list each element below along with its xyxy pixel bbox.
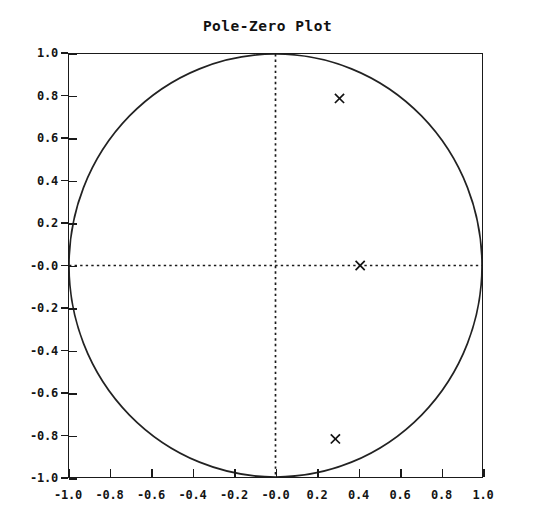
y-tick-stub bbox=[61, 95, 68, 97]
pole-marker bbox=[331, 434, 340, 443]
y-tick-label: 0.4 bbox=[37, 174, 58, 188]
x-tick-label: 0.2 bbox=[306, 488, 327, 502]
x-tick-label: 0.8 bbox=[431, 488, 452, 502]
pole-marker bbox=[356, 261, 365, 270]
x-tick bbox=[151, 469, 153, 477]
y-tick-label: 0.8 bbox=[37, 89, 58, 103]
y-tick bbox=[69, 181, 77, 183]
x-tick-label: 0.4 bbox=[348, 488, 369, 502]
y-tick-label: -0.0 bbox=[30, 259, 58, 273]
y-tick-stub bbox=[61, 180, 68, 182]
y-tick bbox=[69, 223, 77, 225]
pole-zero-figure: Pole-Zero Plot -1.0-0.8-0.6-0.4-0.2-0.00… bbox=[0, 0, 535, 527]
y-tick bbox=[69, 436, 77, 438]
y-tick-label: 1.0 bbox=[37, 46, 58, 60]
x-tick-label: 1.0 bbox=[472, 488, 493, 502]
plot-canvas bbox=[69, 54, 482, 477]
y-tick bbox=[69, 266, 77, 268]
y-tick-label: -0.2 bbox=[30, 301, 58, 315]
x-tick-label: 0.6 bbox=[389, 488, 410, 502]
x-tick-label: -0.0 bbox=[261, 488, 289, 502]
y-tick-label: 0.2 bbox=[37, 216, 58, 230]
y-tick-stub bbox=[61, 52, 68, 54]
x-tick-label: -1.0 bbox=[54, 488, 82, 502]
axis-crosshair-lines bbox=[69, 54, 482, 477]
y-tick-stub bbox=[61, 392, 68, 394]
y-tick-label: -0.4 bbox=[30, 344, 58, 358]
x-tick-label: -0.6 bbox=[137, 488, 165, 502]
page-title: Pole-Zero Plot bbox=[0, 18, 535, 34]
y-tick-stub bbox=[61, 137, 68, 139]
x-tick bbox=[483, 469, 485, 477]
y-tick-stub bbox=[61, 307, 68, 309]
y-tick bbox=[69, 96, 77, 98]
y-tick bbox=[69, 308, 77, 310]
x-tick bbox=[317, 469, 319, 477]
x-tick bbox=[442, 469, 444, 477]
pole-marker bbox=[335, 94, 344, 103]
y-tick-label: 0.6 bbox=[37, 131, 58, 145]
plot-axes-area bbox=[68, 53, 483, 478]
pole-markers bbox=[331, 94, 365, 444]
y-tick-stub bbox=[61, 477, 68, 479]
y-tick bbox=[69, 393, 77, 395]
x-tick bbox=[234, 469, 236, 477]
x-tick-label: -0.8 bbox=[95, 488, 123, 502]
x-tick bbox=[400, 469, 402, 477]
x-tick-label: -0.4 bbox=[178, 488, 206, 502]
x-tick bbox=[193, 469, 195, 477]
y-tick-label: -1.0 bbox=[30, 471, 58, 485]
y-tick-stub bbox=[61, 435, 68, 437]
y-tick-stub bbox=[61, 265, 68, 267]
x-tick-label: -0.2 bbox=[220, 488, 248, 502]
y-tick-label: -0.8 bbox=[30, 429, 58, 443]
y-tick-label: -0.6 bbox=[30, 386, 58, 400]
y-tick-stub bbox=[61, 350, 68, 352]
y-tick bbox=[69, 53, 77, 55]
y-tick-stub bbox=[61, 222, 68, 224]
y-tick bbox=[69, 138, 77, 140]
x-tick bbox=[359, 469, 361, 477]
x-tick bbox=[276, 469, 278, 477]
x-tick bbox=[110, 469, 112, 477]
x-tick bbox=[68, 469, 70, 477]
y-tick bbox=[69, 478, 77, 480]
y-tick bbox=[69, 351, 77, 353]
